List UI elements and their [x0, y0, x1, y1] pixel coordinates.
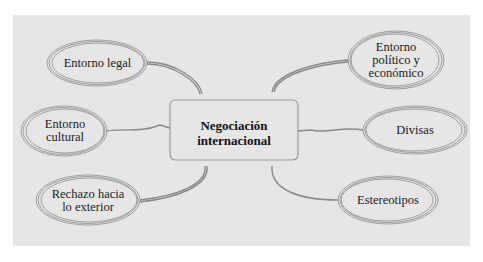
connector-legal [147, 62, 202, 94]
node-label-entorno-politico: Entorno político y económico [350, 38, 442, 82]
node-label-rechazo-exterior: Rechazo hacia lo exterior [38, 181, 138, 221]
connector-cultural [107, 125, 170, 131]
center-node-label: Negociación internacional [170, 108, 298, 158]
connector-divisas [298, 129, 363, 131]
connector-estereotipos [272, 166, 338, 200]
connector-rechazo [140, 166, 205, 200]
node-label-estereotipos: Estereotipos [340, 187, 436, 213]
node-label-entorno-legal: Entorno legal [50, 50, 145, 76]
connector-rechazo-b [140, 166, 207, 202]
connector-politico [272, 60, 348, 92]
node-label-divisas: Divisas [365, 117, 465, 143]
node-label-entorno-cultural: Entorno cultural [25, 111, 105, 151]
